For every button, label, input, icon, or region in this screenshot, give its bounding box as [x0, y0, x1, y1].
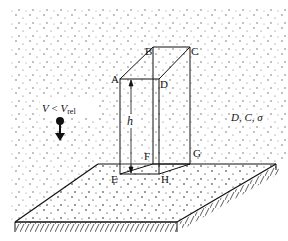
vertex-label-e: E	[111, 173, 118, 185]
height-label: h	[127, 114, 133, 128]
vertex-label-c: C	[191, 45, 198, 57]
vertex-label-b: B	[145, 45, 152, 57]
velocity-vrel-subscript: rel	[67, 107, 76, 116]
velocity-relation: <	[49, 102, 61, 114]
diagram-canvas: h A B C D E F G H V < Vrel D, C, σ	[0, 0, 288, 241]
front-hatching	[16, 223, 177, 232]
vertex-label-g: G	[193, 147, 201, 159]
vertex-label-d: D	[160, 78, 168, 90]
vertex-label-f: F	[144, 150, 150, 162]
parameters-label: D, C, σ	[230, 111, 263, 123]
vertex-label-a: A	[111, 73, 119, 85]
vertex-label-h: H	[161, 173, 169, 185]
